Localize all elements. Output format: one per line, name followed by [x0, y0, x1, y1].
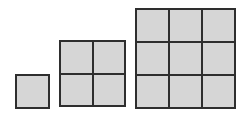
grid-cell — [137, 43, 168, 74]
grid-cell — [203, 10, 234, 41]
grid-cell — [203, 43, 234, 74]
grid-cell — [94, 42, 125, 73]
figure-1x1 — [15, 74, 50, 109]
grid-cell — [17, 76, 48, 107]
grid-cell — [94, 75, 125, 106]
grid-cell — [137, 76, 168, 107]
figure-2x2 — [59, 40, 126, 107]
grid-cell — [137, 10, 168, 41]
grid-cell — [170, 76, 201, 107]
grid-cell — [61, 42, 92, 73]
grid-cell — [170, 10, 201, 41]
figure-3x3 — [135, 8, 236, 109]
grid-cell — [203, 76, 234, 107]
grid-cell — [61, 75, 92, 106]
grid-cell — [170, 43, 201, 74]
